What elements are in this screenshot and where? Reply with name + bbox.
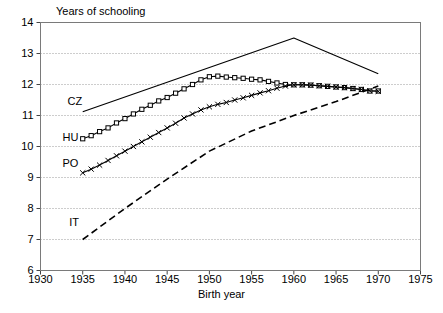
marker-HU: [216, 74, 220, 78]
x-tick-label-1965: 1965: [316, 274, 356, 285]
marker-PO: [122, 149, 127, 154]
marker-HU: [157, 99, 161, 103]
marker-PO: [139, 139, 144, 144]
series-line-IT: [83, 86, 379, 239]
marker-HU: [114, 121, 118, 125]
marker-HU: [140, 107, 144, 111]
marker-PO: [190, 111, 195, 116]
marker-HU: [258, 78, 262, 82]
marker-HU: [207, 75, 211, 79]
series-label-HU: HU: [62, 132, 78, 143]
marker-PO: [114, 153, 119, 158]
y-tick-label-7: 7: [6, 234, 34, 245]
marker-PO: [173, 121, 178, 126]
marker-HU: [131, 112, 135, 116]
marker-PO: [105, 158, 110, 163]
marker-PO: [165, 125, 170, 130]
marker-PO: [148, 135, 153, 140]
y-axis-title: Years of schooling: [56, 5, 146, 18]
marker-PO: [156, 130, 161, 135]
marker-PO: [181, 115, 186, 120]
x-axis-title: Birth year: [0, 288, 443, 301]
marker-PO: [89, 167, 94, 172]
marker-HU: [224, 75, 228, 79]
marker-HU: [199, 78, 203, 82]
marker-HU: [123, 117, 127, 121]
x-tick-label-1945: 1945: [147, 274, 187, 285]
marker-PO: [80, 170, 85, 175]
data-series-group: [80, 38, 381, 240]
y-tick-label-12: 12: [6, 79, 34, 90]
y-tick-label-8: 8: [6, 203, 34, 214]
gridlines-group: [41, 54, 421, 240]
x-tick-label-1935: 1935: [63, 274, 103, 285]
marker-HU: [182, 87, 186, 91]
marker-HU: [190, 82, 194, 86]
y-tick-label-13: 13: [6, 48, 34, 59]
marker-HU: [275, 81, 279, 85]
x-tick-label-1950: 1950: [189, 274, 229, 285]
marker-HU: [148, 103, 152, 107]
marker-PO: [131, 144, 136, 149]
y-tick-label-14: 14: [6, 17, 34, 28]
marker-HU: [250, 77, 254, 81]
x-tick-label-1940: 1940: [105, 274, 145, 285]
marker-HU: [98, 130, 102, 134]
x-tick-label-1970: 1970: [358, 274, 398, 285]
marker-HU: [233, 76, 237, 80]
x-tick-label-1960: 1960: [274, 274, 314, 285]
y-tick-label-11: 11: [6, 110, 34, 121]
x-tick-label-1975: 1975: [401, 274, 441, 285]
y-tick-label-10: 10: [6, 141, 34, 152]
marker-HU: [174, 91, 178, 95]
x-tick-label-1955: 1955: [232, 274, 272, 285]
marker-HU: [241, 76, 245, 80]
y-tick-label-9: 9: [6, 172, 34, 183]
series-label-CZ: CZ: [68, 96, 83, 107]
marker-HU: [266, 79, 270, 83]
marker-HU: [165, 95, 169, 99]
marker-HU: [89, 134, 93, 138]
marker-HU: [106, 126, 110, 130]
marker-PO: [97, 163, 102, 168]
series-label-IT: IT: [69, 217, 79, 228]
marker-HU: [81, 137, 85, 141]
x-tick-label-1930: 1930: [21, 274, 61, 285]
marker-PO: [198, 107, 203, 112]
series-line-PO: [83, 85, 379, 173]
chart-container: Years of schooling 67891011121314 193019…: [0, 0, 443, 313]
series-label-PO: PO: [62, 158, 78, 169]
